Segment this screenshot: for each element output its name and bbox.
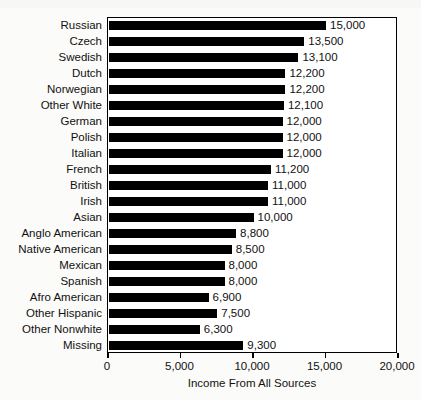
bar-container: 12,000 bbox=[109, 145, 322, 161]
bar bbox=[109, 149, 283, 158]
bar-value-label: 12,100 bbox=[288, 99, 323, 111]
bar-container: 7,500 bbox=[109, 305, 251, 321]
bar-row: Mexican8,000 bbox=[0, 257, 421, 273]
bar-row: Anglo American8,800 bbox=[0, 225, 421, 241]
bar-container: 9,300 bbox=[109, 337, 277, 353]
bar-row: Other White12,100 bbox=[0, 97, 421, 113]
bar-container: 11,000 bbox=[109, 193, 307, 209]
bar-row: Czech13,500 bbox=[0, 33, 421, 49]
bar-value-label: 12,000 bbox=[287, 131, 322, 143]
bar bbox=[109, 165, 271, 174]
bar-row: Other Nonwhite6,300 bbox=[0, 321, 421, 337]
bar-container: 11,000 bbox=[109, 177, 307, 193]
bar-value-label: 10,000 bbox=[258, 211, 293, 223]
bar-row: German12,000 bbox=[0, 113, 421, 129]
bar-value-label: 6,300 bbox=[204, 323, 233, 335]
bar-value-label: 12,000 bbox=[287, 147, 322, 159]
category-label: French bbox=[0, 163, 102, 175]
x-tick bbox=[107, 353, 109, 358]
bar bbox=[109, 277, 225, 286]
bar-container: 8,500 bbox=[109, 241, 265, 257]
bar-rows: Russian15,000Czech13,500Swedish13,100Dut… bbox=[0, 17, 421, 353]
bar bbox=[109, 197, 269, 206]
bar-row: Polish12,000 bbox=[0, 129, 421, 145]
category-label: Irish bbox=[0, 195, 102, 207]
category-label: Italian bbox=[0, 147, 102, 159]
bar-row: Native American8,500 bbox=[0, 241, 421, 257]
bar-row: Afro American6,900 bbox=[0, 289, 421, 305]
bar-container: 15,000 bbox=[109, 17, 366, 33]
category-label: Other Nonwhite bbox=[0, 323, 102, 335]
bar-value-label: 6,900 bbox=[213, 291, 242, 303]
bar bbox=[109, 325, 200, 334]
bar-chart: Russian15,000Czech13,500Swedish13,100Dut… bbox=[0, 0, 421, 400]
cropped-chart-title bbox=[0, 0, 421, 8]
bar-value-label: 9,300 bbox=[247, 339, 276, 351]
bar bbox=[109, 69, 286, 78]
bar bbox=[109, 229, 237, 238]
category-label: Other Hispanic bbox=[0, 307, 102, 319]
bar-row: French11,200 bbox=[0, 161, 421, 177]
bar-container: 12,000 bbox=[109, 113, 322, 129]
bar-row: Norwegian12,200 bbox=[0, 81, 421, 97]
x-axis-title: Income From All Sources bbox=[107, 377, 397, 390]
bar-value-label: 8,800 bbox=[240, 227, 269, 239]
bar-container: 8,000 bbox=[109, 273, 258, 289]
x-tick-label: 15,000 bbox=[307, 360, 342, 372]
bar-container: 13,100 bbox=[109, 49, 338, 65]
bar-row: Swedish13,100 bbox=[0, 49, 421, 65]
x-tick-label: 20,000 bbox=[379, 360, 414, 372]
x-tick bbox=[325, 353, 327, 358]
bar-container: 12,100 bbox=[109, 97, 324, 113]
category-label: Polish bbox=[0, 131, 102, 143]
category-label: Norwegian bbox=[0, 83, 102, 95]
bar bbox=[109, 181, 269, 190]
bar-container: 12,200 bbox=[109, 65, 325, 81]
category-label: Other White bbox=[0, 99, 102, 111]
bar bbox=[109, 101, 284, 110]
bar bbox=[109, 53, 299, 62]
bar-row: Other Hispanic7,500 bbox=[0, 305, 421, 321]
bar-container: 8,000 bbox=[109, 257, 258, 273]
x-tick-label: 10,000 bbox=[234, 360, 269, 372]
bar-row: Italian12,000 bbox=[0, 145, 421, 161]
bar-container: 6,900 bbox=[109, 289, 242, 305]
x-tick bbox=[397, 353, 399, 358]
bar-value-label: 8,000 bbox=[229, 259, 258, 271]
category-label: Afro American bbox=[0, 291, 102, 303]
bar-value-label: 12,000 bbox=[287, 115, 322, 127]
category-label: British bbox=[0, 179, 102, 191]
bar-value-label: 15,000 bbox=[330, 19, 365, 31]
bar-value-label: 11,000 bbox=[272, 195, 306, 207]
bar-container: 10,000 bbox=[109, 209, 293, 225]
bar bbox=[109, 261, 225, 270]
x-tick bbox=[252, 353, 254, 358]
x-tick-label: 5,000 bbox=[165, 360, 194, 372]
bar-value-label: 13,100 bbox=[302, 51, 337, 63]
bar-value-label: 12,200 bbox=[289, 67, 324, 79]
bar-container: 12,000 bbox=[109, 129, 322, 145]
bar bbox=[109, 293, 209, 302]
bar-row: Irish11,000 bbox=[0, 193, 421, 209]
bar bbox=[109, 117, 283, 126]
bar bbox=[109, 85, 286, 94]
bar-value-label: 12,200 bbox=[289, 83, 324, 95]
category-label: Asian bbox=[0, 211, 102, 223]
x-axis: 05,00010,00015,00020,000 bbox=[107, 353, 397, 354]
bar-container: 11,200 bbox=[109, 161, 310, 177]
bar-container: 8,800 bbox=[109, 225, 269, 241]
bar-row: Dutch12,200 bbox=[0, 65, 421, 81]
category-label: Swedish bbox=[0, 51, 102, 63]
category-label: Missing bbox=[0, 339, 102, 351]
category-label: Spanish bbox=[0, 275, 102, 287]
bar-value-label: 8,000 bbox=[229, 275, 258, 287]
bar bbox=[109, 245, 232, 254]
x-tick bbox=[180, 353, 182, 358]
category-label: German bbox=[0, 115, 102, 127]
bar-container: 12,200 bbox=[109, 81, 325, 97]
category-label: Native American bbox=[0, 243, 102, 255]
bar-container: 13,500 bbox=[109, 33, 344, 49]
bar bbox=[109, 133, 283, 142]
category-label: Mexican bbox=[0, 259, 102, 271]
category-label: Czech bbox=[0, 35, 102, 47]
